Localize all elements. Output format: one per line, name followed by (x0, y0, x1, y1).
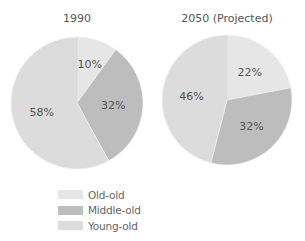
legend-label-middle-old: Middle-old (88, 204, 141, 216)
legend-swatch-young-old (58, 221, 83, 230)
chart-title-2050: 2050 (Projected) (181, 12, 272, 25)
data-label-young-old: 58% (30, 106, 54, 119)
data-label-middle-old: 32% (239, 120, 263, 133)
data-label-old-old: 10% (77, 58, 101, 71)
legend-item-young-old: Young-old (58, 218, 141, 234)
legend-label-old-old: Old-old (88, 189, 124, 201)
data-label-middle-old: 32% (101, 99, 125, 112)
legend-item-old-old: Old-old (58, 187, 141, 203)
pie-1990: 10%32%58% (11, 37, 143, 169)
legend-label-young-old: Young-old (88, 220, 138, 232)
legend: Old-old Middle-old Young-old (58, 187, 141, 234)
legend-item-middle-old: Middle-old (58, 203, 141, 219)
pie-charts: 1990 2050 (Projected) 10%32%58% 22%32%46… (0, 0, 305, 241)
data-label-old-old: 22% (238, 66, 262, 79)
data-label-young-old: 46% (179, 90, 203, 103)
chart-title-1990: 1990 (63, 12, 91, 25)
pie-2050: 22%32%46% (162, 35, 292, 165)
legend-swatch-old-old (58, 190, 83, 199)
legend-swatch-middle-old (58, 206, 83, 215)
